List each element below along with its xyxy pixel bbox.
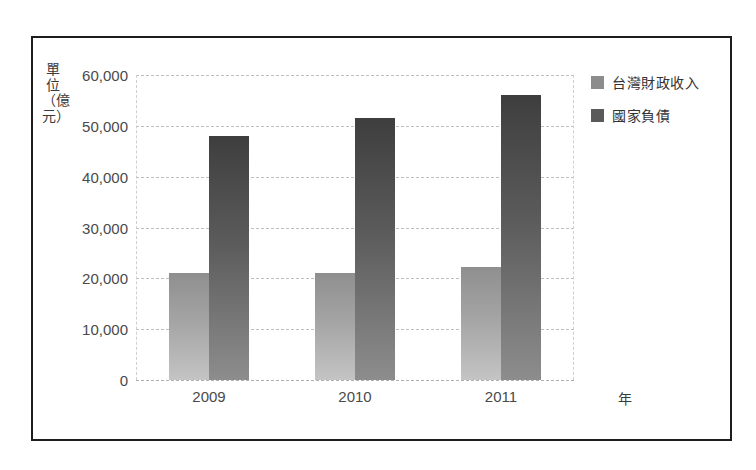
y-axis-tick-label: 10,000 xyxy=(50,321,128,338)
legend-item-label: 台灣財政收入 xyxy=(612,72,699,92)
chart-figure-frame: 單位（億元） 60,00050,00040,00030,00020,00010,… xyxy=(31,36,732,441)
legend-item-label: 國家負債 xyxy=(612,105,670,125)
x-axis-title: 年 xyxy=(618,388,632,408)
x-axis-tick-label: 2011 xyxy=(485,388,517,405)
legend-item-debt[interactable]: 國家負債 xyxy=(591,105,731,125)
bar-series-layer xyxy=(136,75,574,380)
legend-item-revenue[interactable]: 台灣財政收入 xyxy=(591,72,731,92)
x-axis-tick-labels: 200920102011 xyxy=(136,388,574,416)
bar-group-2010 xyxy=(315,75,395,380)
bar-revenue-2010[interactable] xyxy=(315,273,355,380)
y-axis-tick-label: 40,000 xyxy=(50,168,128,185)
bar-revenue-2011[interactable] xyxy=(461,267,501,380)
bar-debt-2010[interactable] xyxy=(355,118,395,380)
x-axis-tick-label: 2010 xyxy=(338,388,371,405)
chart-legend: 台灣財政收入國家負債 xyxy=(591,72,731,138)
bar-revenue-2009[interactable] xyxy=(169,273,209,380)
y-axis-tick-label: 0 xyxy=(50,372,128,389)
grid-line xyxy=(136,380,574,381)
y-axis-tick-label: 60,000 xyxy=(50,67,128,84)
x-axis-tick-label: 2009 xyxy=(192,388,225,405)
y-axis-tick-label: 50,000 xyxy=(50,117,128,134)
y-axis-tick-label: 30,000 xyxy=(50,219,128,236)
revenue-swatch-icon xyxy=(591,76,604,89)
bar-group-2009 xyxy=(169,75,249,380)
y-axis-tick-labels: 60,00050,00040,00030,00020,00010,0000 xyxy=(48,75,128,380)
bar-debt-2011[interactable] xyxy=(501,95,541,380)
bar-debt-2009[interactable] xyxy=(209,136,249,380)
y-axis-tick-label: 20,000 xyxy=(50,270,128,287)
debt-swatch-icon xyxy=(591,109,604,122)
bar-group-2011 xyxy=(461,75,541,380)
plot-area xyxy=(136,75,574,380)
